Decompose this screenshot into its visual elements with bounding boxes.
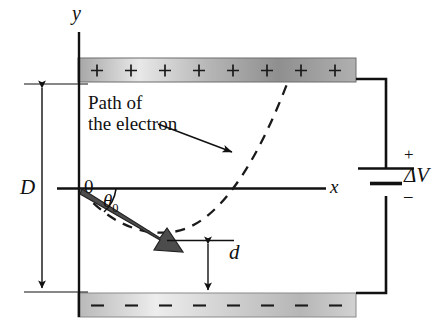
x-axis-label: x (330, 176, 338, 197)
wire-top (356, 79, 386, 168)
launch-angle-label: θ0 (103, 190, 119, 215)
battery-negative-sign: – (404, 186, 413, 205)
top-plate (78, 58, 356, 82)
path-caption-line-2: the electron (88, 113, 177, 134)
battery-positive-sign: + (404, 145, 414, 164)
wire-bottom (356, 196, 386, 293)
physics-diagram-parallel-plate-electron: y x 0 D d ΔV θ0 Path of the electron + – (0, 0, 448, 331)
top-plate-group (78, 58, 356, 82)
path-caption: Path of the electron (88, 92, 177, 135)
bottom-plate (78, 293, 356, 317)
diagram-canvas (0, 0, 448, 331)
path-caption-line-1: Path of (88, 92, 177, 113)
launch-angle-symbol: θ (103, 190, 112, 211)
circuit-wires (356, 79, 386, 293)
initial-velocity-arrow (80, 189, 183, 252)
origin-label: 0 (84, 176, 94, 197)
launch-angle-subscript: 0 (112, 201, 118, 215)
distance-d-label: d (229, 241, 240, 265)
y-axis-label: y (72, 2, 81, 24)
bottom-plate-group (78, 293, 356, 317)
potential-difference-label: ΔV (404, 164, 429, 188)
plate-separation-label: D (20, 176, 35, 200)
